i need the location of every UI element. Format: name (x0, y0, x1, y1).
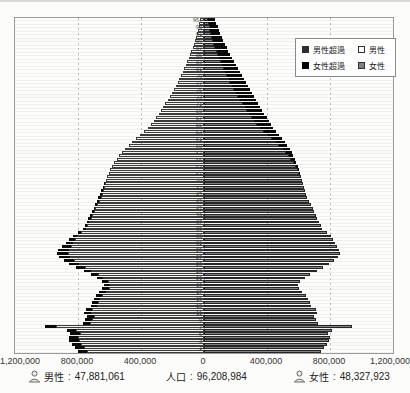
female-bar (204, 350, 321, 353)
age-axis-label: 25 (196, 261, 202, 267)
age-axis-label: 23 (196, 268, 202, 274)
age-axis-label: 45 (196, 191, 202, 197)
age-axis-label: 37 (196, 219, 202, 225)
age-axis-label: 77 (196, 80, 202, 86)
age-axis-label: 63 (196, 129, 202, 135)
age-axis-label: 29 (196, 247, 202, 253)
legend-label: 女性超過 (313, 60, 345, 71)
age-axis-label: 85 (196, 52, 202, 58)
age-axis-label: 87 (196, 45, 202, 51)
x-tick: 800,000 (61, 356, 94, 366)
male-total-value: 47,881,061 (75, 371, 125, 382)
age-axis-label: 13 (196, 303, 202, 309)
age-axis-label: 39 (196, 212, 202, 218)
age-axis-label: 65 (196, 122, 202, 128)
age-axis-label: 91 (196, 31, 202, 37)
age-axis-label: 69 (196, 108, 202, 114)
age-axis-label: 7 (199, 324, 202, 330)
age-axis-label: 59 (196, 143, 202, 149)
female-bar-fill (204, 350, 321, 353)
x-tick: 400,000 (250, 356, 283, 366)
age-axis-label: 15 (196, 296, 202, 302)
x-tick: 800,000 (313, 356, 346, 366)
male-excess-segment (78, 350, 87, 353)
female-swatch-icon (358, 62, 365, 69)
legend-label: 女性 (369, 60, 385, 71)
female-total: 女性 : 48,327,923 (293, 369, 390, 384)
age-axis-label: 73 (196, 94, 202, 100)
top-border-strip (0, 0, 410, 2)
age-axis-label: 83 (196, 59, 202, 65)
male-total-label: 男性 (44, 369, 64, 384)
age-axis-label: 35 (196, 226, 202, 232)
legend-label: 男性超過 (313, 44, 345, 55)
female-person-icon (293, 370, 306, 383)
age-axis-label: 79 (196, 73, 202, 79)
age-axis-label: 49 (196, 178, 202, 184)
summary-row: 男性 : 47,881,061 人口 : 96,208,984 女性 : 48,… (0, 369, 410, 389)
x-tick: 400,000 (124, 356, 157, 366)
age-axis-label: 41 (196, 205, 202, 211)
male-person-icon (28, 370, 41, 383)
legend-item-male-excess: 男性超過 (302, 44, 349, 55)
separator: : (190, 371, 193, 382)
age-axis-label: 53 (196, 164, 202, 170)
legend-item-male: 男性 (358, 44, 389, 55)
age-axis-label: 27 (196, 254, 202, 260)
age-axis-label: 71 (196, 101, 202, 107)
plot-area: 男性超過 男性 女性超過 女性 95+939189878583817977757… (14, 17, 394, 354)
separator: : (68, 371, 71, 382)
age-axis-label: 5 (199, 331, 202, 337)
legend-item-female-excess: 女性超過 (302, 60, 349, 71)
age-axis-label: 57 (196, 150, 202, 156)
age-axis-label: 19 (196, 282, 202, 288)
age-axis-label: 61 (196, 136, 202, 142)
age-axis-label: 33 (196, 233, 202, 239)
population-total-value: 96,208,984 (197, 371, 247, 382)
age-axis-label: 89 (196, 38, 202, 44)
age-axis-label: 67 (196, 115, 202, 121)
legend-label: 男性 (369, 44, 385, 55)
age-axis-label: 17 (196, 289, 202, 295)
age-axis-label: 51 (196, 171, 202, 177)
age-axis-label: 9 (199, 317, 202, 323)
x-tick: 1,200,000 (370, 356, 410, 366)
legend: 男性超過 男性 女性超過 女性 (295, 38, 396, 77)
age-axis-label: 55 (196, 157, 202, 163)
age-axis-label: 47 (196, 185, 202, 191)
age-axis-label: 43 (196, 198, 202, 204)
female-total-label: 女性 (309, 369, 329, 384)
age-axis-label: 81 (196, 66, 202, 72)
male-bar-fill (87, 350, 204, 353)
age-axis-label: 75 (196, 87, 202, 93)
male-excess-swatch-icon (302, 46, 309, 53)
age-axis-label: 31 (196, 240, 202, 246)
age-axis-label: 21 (196, 275, 202, 281)
x-tick: 1,200,000 (0, 356, 40, 366)
female-total-value: 48,327,923 (340, 371, 390, 382)
population-pyramid-screenshot: 男性超過 男性 女性超過 女性 95+939189878583817977757… (0, 0, 410, 393)
population-total-label: 人口 (166, 369, 186, 384)
pyramid-row-age-0 (15, 350, 393, 353)
legend-item-female: 女性 (358, 60, 389, 71)
separator: : (333, 371, 336, 382)
x-axis: 1,200,000 800,000 400,000 0 400,000 800,… (0, 356, 410, 368)
male-total: 男性 : 47,881,061 (28, 369, 125, 384)
x-tick: 0 (200, 356, 205, 366)
age-axis-label: 93 (196, 24, 202, 30)
female-excess-swatch-icon (302, 62, 309, 69)
age-axis-label: 3 (199, 338, 202, 344)
male-bar (78, 350, 204, 353)
age-axis-label: 95+ (193, 17, 202, 23)
age-axis-label: 11 (196, 310, 202, 316)
population-total: 人口 : 96,208,984 (166, 369, 247, 384)
age-axis-label: 1 (199, 345, 202, 351)
male-swatch-icon (358, 46, 365, 53)
